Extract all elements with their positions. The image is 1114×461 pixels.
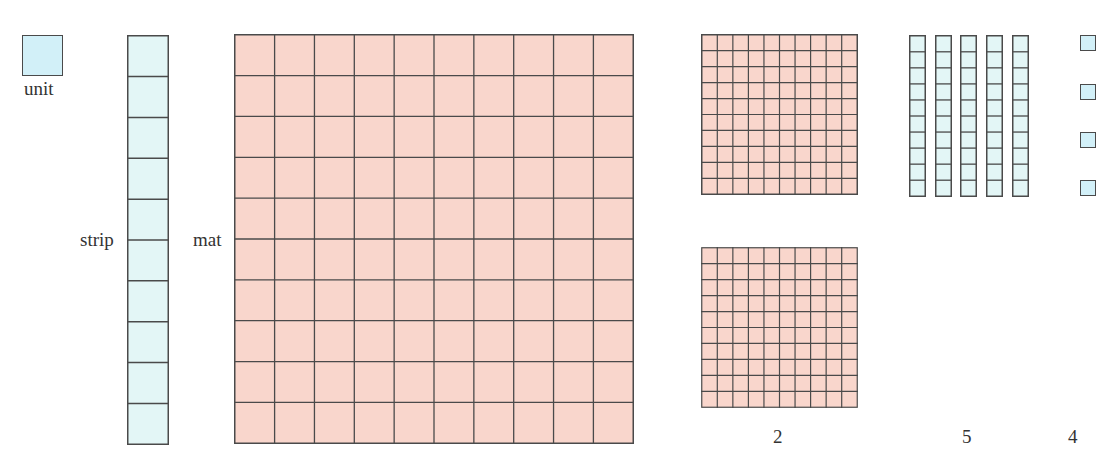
units-count-label: 4 — [1068, 426, 1078, 448]
small-strip-2 — [935, 35, 952, 197]
unit-block — [22, 35, 63, 76]
small-strip-1 — [909, 35, 926, 197]
small-unit-2 — [1080, 84, 1096, 100]
unit-label: unit — [24, 78, 54, 100]
small-unit-3 — [1080, 132, 1096, 148]
mat-label: mat — [193, 229, 222, 251]
small-mat-1 — [701, 34, 858, 195]
small-mat-2 — [701, 247, 858, 408]
mat-block — [234, 34, 634, 444]
strip-block — [127, 35, 169, 445]
small-strip-4 — [986, 35, 1003, 197]
small-strip-3 — [960, 35, 977, 197]
small-unit-1 — [1080, 35, 1096, 51]
mats-count-label: 2 — [773, 426, 783, 448]
strips-count-label: 5 — [962, 426, 972, 448]
small-strip-5 — [1012, 35, 1029, 197]
small-unit-4 — [1080, 180, 1096, 196]
strip-label: strip — [80, 229, 114, 251]
